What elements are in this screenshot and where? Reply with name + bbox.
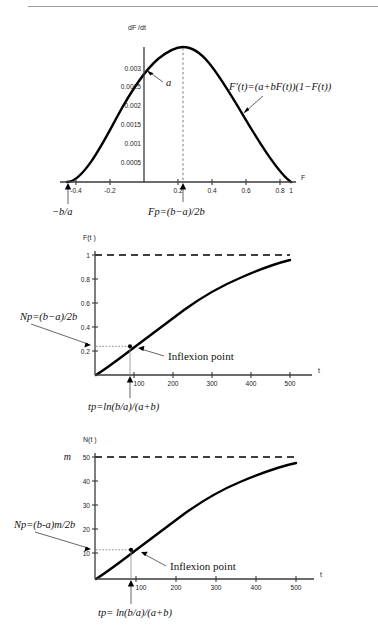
chart-cumulative-adopters: N(t ) t m 50 40 30 20 10 100 200 300 400… (0, 422, 378, 634)
np-annotation-group-3: Np=(b-a)m/2b (13, 519, 91, 551)
x-tick-label-1-1: -0.2 (104, 187, 116, 194)
page-header-rule (28, 6, 378, 7)
curve-dFdt (67, 47, 291, 182)
x-tick-label-2-0: 100 (133, 380, 144, 387)
y-tick-label-1-4: 0.001 (124, 140, 141, 147)
y-tick-label-2-1: 0.8 (81, 276, 90, 283)
inflexion-point-marker-3 (129, 548, 133, 552)
tp-arrow-head-2 (127, 376, 133, 383)
y-tick-label-1-0: 0.003 (124, 65, 141, 72)
equation-annotation-group: F′(t)=(a+bF(t))(1−F(t)) (228, 81, 332, 114)
y-tick-label-3-3: 20 (83, 526, 91, 533)
y-tick-label-2-0: 1 (86, 252, 90, 259)
np-label-2: Np=(b−a)/2b (19, 311, 77, 323)
chart-cumulative-fraction: F(t ) t 1 0.8 0.6 0.4 0.2 100 200 300 40… (0, 218, 378, 420)
tp-label-2: tp=ln(b/a)/(a+b) (88, 401, 160, 413)
figure-page: dF /dt F 0.003 0.0025 0.002 0.0015 0.001… (0, 0, 378, 638)
y-tick-label-1-1: 0.0025 (121, 83, 142, 90)
tp-annotation-group-2: tp=ln(b/a)/(a+b) (88, 376, 160, 413)
chart-derivative-parabola: dF /dt F 0.003 0.0025 0.002 0.0015 0.001… (0, 12, 378, 217)
inflexion-annotation-group-3: Inflexion point (141, 552, 236, 572)
left-root-label: −b/a (52, 206, 73, 217)
x-tick-label-3-3: 400 (250, 584, 261, 591)
x-tick-label-2-1: 200 (167, 380, 178, 387)
x-tick-label-1-6: 1 (289, 187, 293, 194)
chart-3-svg: N(t ) t m 50 40 30 20 10 100 200 300 400… (0, 422, 378, 634)
chart-2-svg: F(t ) t 1 0.8 0.6 0.4 0.2 100 200 300 40… (0, 218, 378, 420)
tp-arrow-head-3 (128, 580, 134, 587)
x-tick-label-3-4: 500 (290, 584, 301, 591)
x-tick-label-1-0: -0.4 (70, 187, 82, 194)
y-axis-title-2: F(t ) (83, 234, 96, 242)
a-annotation-group: a (147, 71, 171, 89)
x-tick-label-1-4: 0.6 (241, 187, 250, 194)
chart-1-svg: dF /dt F 0.003 0.0025 0.002 0.0015 0.001… (0, 12, 378, 217)
y-tick-label-3-2: 30 (83, 502, 91, 509)
inflexion-label-3: Inflexion point (170, 560, 236, 572)
y-tick-label-3-1: 40 (83, 478, 91, 485)
inflexion-label-2: Inflexion point (168, 350, 234, 362)
inflexion-arrow-head-2 (138, 346, 144, 351)
equation-label: F′(t)=(a+bF(t))(1−F(t)) (228, 81, 332, 93)
peak-label: Fp=(b−a)/2b (147, 206, 205, 217)
inflexion-point-marker-2 (128, 344, 132, 348)
m-asymptote-label: m (64, 451, 71, 462)
y-axis-title-3: N(t ) (83, 436, 97, 444)
y-tick-label-3-0: 50 (83, 454, 91, 461)
x-tick-label-3-2: 300 (210, 584, 221, 591)
x-axis-title-3: t (320, 571, 322, 578)
y-tick-label-2-4: 0.2 (81, 348, 90, 355)
np-label-3: Np=(b-a)m/2b (13, 519, 75, 531)
x-tick-label-3-0: 100 (135, 584, 146, 591)
page-header-ghost-text (230, 0, 378, 3)
y-tick-label-1-5: 0.0005 (121, 159, 142, 166)
y-axis-title-1: dF /dt (128, 24, 146, 31)
tp-label-3: tp= ln(b/a)/(a+b) (98, 607, 172, 619)
x-tick-label-2-2: 300 (206, 380, 217, 387)
a-label: a (166, 77, 171, 88)
x-tick-label-3-1: 200 (170, 584, 181, 591)
x-axis-title-2: t (318, 367, 320, 374)
x-tick-label-2-3: 400 (245, 380, 256, 387)
y-tick-label-2-2: 0.6 (81, 300, 90, 307)
x-tick-label-1-5: 0.8 (275, 187, 284, 194)
x-tick-label-2-4: 500 (284, 380, 295, 387)
x-tick-label-1-3: 0.4 (207, 187, 216, 194)
y-tick-label-2-3: 0.4 (81, 324, 90, 331)
equation-arrow-head (243, 107, 249, 113)
x-axis-title-1: F (301, 174, 305, 181)
inflexion-annotation-group-2: Inflexion point (138, 346, 234, 362)
y-tick-label-1-2: 0.002 (124, 102, 141, 109)
y-tick-label-1-3: 0.0015 (121, 121, 142, 128)
left-root-annotation-group: −b/a (52, 183, 73, 217)
